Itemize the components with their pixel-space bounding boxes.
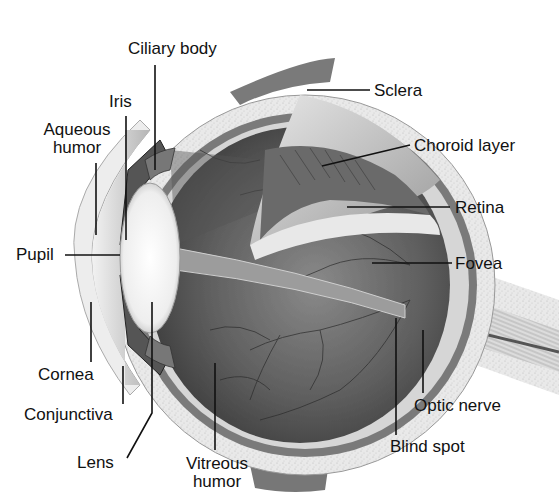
label-pupil: Pupil bbox=[16, 246, 54, 264]
label-conjunctiva: Conjunctiva bbox=[24, 406, 113, 424]
label-aqueous-humor-line2: humor bbox=[35, 139, 119, 157]
lens-shape bbox=[120, 183, 180, 333]
label-retina: Retina bbox=[455, 199, 504, 217]
label-iris: Iris bbox=[109, 93, 132, 111]
label-vitreous-humor-line2: humor bbox=[175, 473, 259, 491]
label-vitreous-humor-line1: Vitreous bbox=[175, 455, 259, 473]
label-ciliary-body: Ciliary body bbox=[128, 40, 217, 58]
eye-diagram bbox=[0, 0, 559, 504]
label-cornea: Cornea bbox=[38, 366, 94, 384]
label-sclera: Sclera bbox=[374, 82, 422, 100]
label-aqueous-humor-line1: Aqueous bbox=[35, 121, 119, 139]
label-choroid-layer: Choroid layer bbox=[414, 137, 515, 155]
label-lens: Lens bbox=[77, 454, 114, 472]
label-optic-nerve: Optic nerve bbox=[414, 397, 501, 415]
label-blind-spot: Blind spot bbox=[390, 438, 465, 456]
label-fovea: Fovea bbox=[455, 255, 502, 273]
